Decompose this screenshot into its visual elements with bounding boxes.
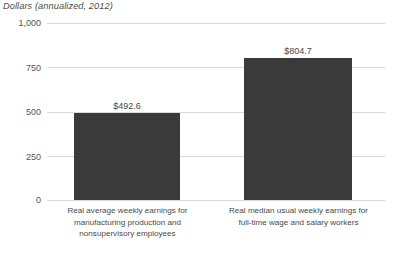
value-label-bar-0: $492.6 (74, 101, 180, 111)
bar-chart: Dollars (annualized, 2012) 1,000 750 500… (0, 0, 394, 256)
category-label-1: Real median usual weekly earnings for fu… (215, 205, 382, 228)
y-axis-tick-label-1000: 1,000 (1, 19, 41, 28)
category-label-0-line-1: manufacturing production and (52, 217, 203, 229)
category-label-0-line-0: Real average weekly earnings for (52, 205, 203, 217)
bar-real-median-usual-weekly-earnings[interactable] (244, 58, 352, 200)
y-axis-tick-label-0: 0 (1, 196, 41, 205)
plot-area: $492.6 $804.7 (47, 23, 385, 200)
axis-title: Dollars (annualized, 2012) (3, 1, 113, 11)
gridline-0-baseline (47, 200, 385, 201)
y-axis-tick-label-750: 750 (1, 64, 41, 73)
category-label-1-line-0: Real median usual weekly earnings for (215, 205, 382, 217)
value-label-bar-1: $804.7 (244, 46, 352, 56)
category-label-1-line-1: full-time wage and salary workers (215, 217, 382, 229)
y-axis-tick-label-250: 250 (1, 153, 41, 162)
bar-real-average-weekly-earnings[interactable] (74, 113, 180, 200)
y-axis-tick-label-500: 500 (1, 108, 41, 117)
category-label-0-line-2: nonsupervisory employees (52, 228, 203, 240)
category-label-0: Real average weekly earnings for manufac… (52, 205, 203, 240)
gridline-1000 (47, 23, 385, 24)
